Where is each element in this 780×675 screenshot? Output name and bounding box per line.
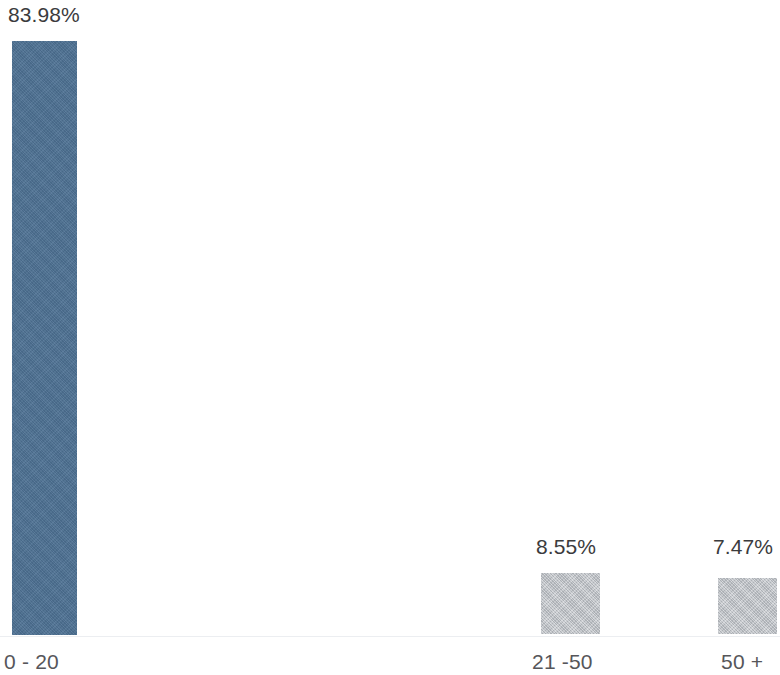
bar-value-label-2: 7.47% (713, 535, 773, 559)
category-label-1: 21 -50 (532, 650, 593, 674)
bar-value-label-1: 8.55% (536, 535, 596, 559)
bar-0 (12, 41, 77, 635)
category-label-2: 50 + (721, 650, 763, 674)
bar-value-label-0: 83.98% (8, 3, 80, 27)
bar-chart: 83.98% 0 - 20 8.55% 21 -50 7.47% 50 + (0, 0, 780, 675)
axis-baseline (0, 636, 780, 637)
bar-1 (541, 573, 600, 634)
bar-2 (718, 578, 777, 634)
category-label-0: 0 - 20 (4, 650, 59, 674)
